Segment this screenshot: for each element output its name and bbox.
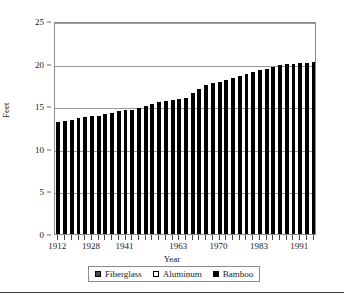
bar: [103, 114, 107, 234]
x-axis-tick-mark: [91, 235, 92, 240]
legend-entry: Bamboo: [213, 269, 254, 279]
x-axis-tick-mark: [198, 235, 199, 240]
legend-entry: Aluminum: [153, 269, 202, 279]
x-axis-tick-mark: [78, 235, 79, 240]
bar: [124, 110, 128, 234]
chart-legend: FiberglassAluminumBamboo: [88, 266, 260, 282]
y-axis-title: Feet: [2, 103, 11, 119]
bar: [177, 99, 181, 234]
bar: [292, 64, 296, 234]
bar: [224, 80, 228, 234]
bar: [305, 63, 309, 234]
x-axis-tick-mark: [259, 235, 260, 240]
bar: [204, 85, 208, 234]
x-axis-tick-mark: [245, 235, 246, 240]
legend-swatch-icon: [95, 271, 101, 277]
bar: [197, 89, 201, 234]
x-axis-tick-mark: [84, 235, 85, 240]
bar: [251, 72, 255, 234]
x-axis-tick-mark: [138, 235, 139, 240]
bar: [63, 121, 67, 234]
bar: [245, 74, 249, 234]
y-axis-tick-label: 15: [35, 103, 44, 112]
y-axis-tick-label: 25: [35, 18, 44, 27]
y-axis-tick-label: 20: [35, 60, 44, 69]
x-axis-tick-mark: [299, 235, 300, 240]
x-axis-tick-mark: [232, 235, 233, 240]
bar: [278, 65, 282, 234]
x-axis-tick-label: 1941: [116, 241, 134, 251]
legend-swatch-icon: [153, 271, 159, 277]
x-axis-tick-mark: [225, 235, 226, 240]
bar: [312, 62, 316, 234]
x-axis-tick-label: 1928: [82, 241, 100, 251]
bar: [171, 100, 175, 234]
bar: [191, 93, 195, 234]
x-axis-tick-mark: [205, 235, 206, 240]
bar: [238, 76, 242, 234]
x-axis-tick-label: 1970: [210, 241, 228, 251]
plot-area: [54, 22, 316, 235]
bar: [130, 110, 134, 234]
bar: [90, 116, 94, 234]
x-axis-tick-mark: [279, 235, 280, 240]
bar: [265, 69, 269, 234]
x-axis-tick-mark: [145, 235, 146, 240]
bar: [137, 108, 141, 234]
legend-label: Bamboo: [223, 269, 254, 279]
x-axis-tick-mark: [118, 235, 119, 240]
y-axis-tick-mark: [47, 235, 51, 236]
y-axis-tick-label: 0: [40, 231, 45, 240]
x-axis-tick-label: 1963: [169, 241, 187, 251]
y-axis-tick-label: 10: [35, 145, 44, 154]
legend-label: Aluminum: [163, 269, 202, 279]
bar: [211, 83, 215, 234]
legend-swatch-icon: [213, 271, 219, 277]
bar: [83, 117, 87, 234]
bar: [77, 118, 81, 234]
x-axis-tick-mark: [165, 235, 166, 240]
x-axis-tick-mark: [306, 235, 307, 240]
x-axis-tick-mark: [178, 235, 179, 240]
bar: [271, 67, 275, 234]
x-axis-tick-mark: [212, 235, 213, 240]
y-axis-tick-mark: [47, 107, 51, 108]
x-axis-tick-mark: [71, 235, 72, 240]
x-axis-tick-mark: [151, 235, 152, 240]
legend-entry: Fiberglass: [95, 269, 142, 279]
x-axis-tick-label: 1912: [48, 241, 66, 251]
bar: [231, 78, 235, 234]
x-axis-tick-mark: [131, 235, 132, 240]
bar: [144, 106, 148, 234]
x-axis-title: Year: [0, 254, 344, 264]
bar: [70, 120, 74, 234]
y-axis-tick-mark: [47, 149, 51, 150]
x-axis-tick-label: 1983: [250, 241, 268, 251]
legend-label: Fiberglass: [105, 269, 142, 279]
bar: [184, 98, 188, 234]
bar: [56, 122, 60, 234]
x-axis-tick-mark: [125, 235, 126, 240]
bar: [150, 104, 154, 234]
bar: [164, 101, 168, 234]
x-axis-tick-mark: [219, 235, 220, 240]
page-divider: [0, 292, 344, 293]
bar: [298, 63, 302, 234]
x-axis-tick-mark: [57, 235, 58, 240]
x-axis-tick-mark: [158, 235, 159, 240]
y-axis-tick-label: 5: [40, 188, 45, 197]
bar: [285, 64, 289, 234]
bar: [258, 70, 262, 234]
x-axis-tick-mark: [272, 235, 273, 240]
x-axis-tick-mark: [252, 235, 253, 240]
x-axis-tick-mark: [286, 235, 287, 240]
x-axis-tick-mark: [239, 235, 240, 240]
x-axis-tick-labels: 1912192819411963197019831991: [0, 241, 344, 255]
x-axis-tick-mark: [111, 235, 112, 240]
bar: [157, 102, 161, 234]
bar: [97, 116, 101, 234]
bar: [218, 82, 222, 235]
y-axis-tick-mark: [47, 64, 51, 65]
x-axis-tick-mark: [292, 235, 293, 240]
x-axis-tick-mark: [172, 235, 173, 240]
